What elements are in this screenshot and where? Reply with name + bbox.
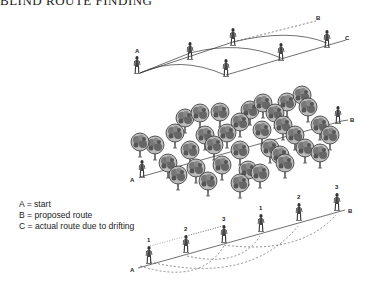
walker-icon — [134, 56, 140, 73]
walker-icon — [146, 246, 152, 263]
walker-icon — [230, 28, 236, 45]
top-figure: A B C — [134, 15, 350, 77]
walker-number: 3 — [222, 216, 226, 222]
walker-number: 2 — [297, 194, 301, 200]
walker-icon — [296, 203, 302, 220]
walker-number: 3 — [335, 184, 339, 190]
walker-icon — [258, 214, 264, 231]
walker-icon — [324, 30, 330, 47]
bottom-figure: 1 2 3 1 2 3 A B — [130, 184, 353, 273]
walker-number: 1 — [259, 205, 263, 211]
label-a-middle: A — [130, 177, 135, 183]
label-b-middle: B — [350, 117, 355, 123]
walker-icon — [187, 42, 193, 59]
walker-icon — [183, 235, 189, 252]
walker-icon — [139, 160, 145, 177]
walker-number: 1 — [147, 237, 151, 243]
label-c-top: C — [345, 35, 350, 41]
label-a-top: A — [135, 48, 140, 54]
diagram-canvas: A B C — [0, 0, 365, 283]
label-b-bottom: B — [348, 208, 353, 214]
walker-icon — [335, 106, 341, 123]
middle-figure: A B — [130, 86, 355, 198]
label-b-top: B — [316, 15, 321, 21]
walker-icon — [334, 193, 340, 210]
label-a-bottom: A — [130, 267, 135, 273]
walker-number: 2 — [184, 226, 188, 232]
walker-icon — [223, 59, 229, 76]
walker-icon — [221, 225, 227, 242]
